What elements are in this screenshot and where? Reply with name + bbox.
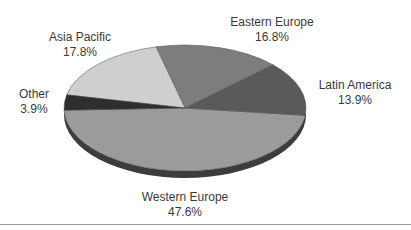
label-eastern-europe-name: Eastern Europe — [222, 15, 322, 30]
label-latin-america-value: 13.9% — [310, 93, 400, 108]
label-latin-america: Latin America 13.9% — [310, 78, 400, 108]
label-western-europe-value: 47.6% — [135, 205, 235, 220]
bottom-divider — [0, 224, 411, 225]
label-asia-pacific-name: Asia Pacific — [40, 30, 120, 45]
label-western-europe: Western Europe 47.6% — [135, 190, 235, 220]
label-asia-pacific-value: 17.8% — [40, 45, 120, 60]
label-other: Other 3.9% — [14, 87, 54, 117]
label-asia-pacific: Asia Pacific 17.8% — [40, 30, 120, 60]
label-eastern-europe-value: 16.8% — [222, 30, 322, 45]
label-western-europe-name: Western Europe — [135, 190, 235, 205]
label-other-name: Other — [14, 87, 54, 102]
label-other-value: 3.9% — [14, 102, 54, 117]
slice-western-europe — [64, 108, 305, 171]
label-latin-america-name: Latin America — [310, 78, 400, 93]
label-eastern-europe: Eastern Europe 16.8% — [222, 15, 322, 45]
